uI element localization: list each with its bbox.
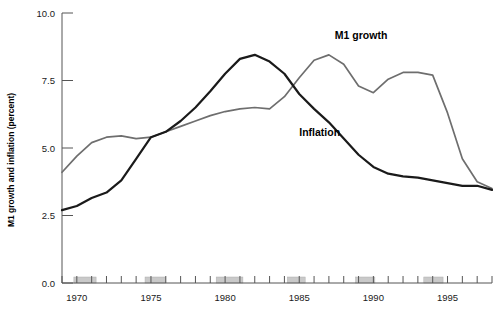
chart-background <box>0 0 503 318</box>
recession-bar <box>287 277 305 283</box>
recession-bar <box>424 277 443 283</box>
y-axis-tick-label: 10.0 <box>37 8 56 19</box>
x-axis-tick-label: 1975 <box>140 292 161 303</box>
x-axis-tick-label: 1995 <box>437 292 458 303</box>
y-axis-title: M1 growth and inflation (percent) <box>6 93 16 227</box>
y-axis-tick-label: 5.0 <box>42 143 55 154</box>
y-axis-tick-label: 0.0 <box>42 278 55 289</box>
chart-container: 0.02.55.07.510.0 19701975198019851990199… <box>0 0 503 318</box>
recession-bar <box>216 277 243 283</box>
x-axis-tick-label: 1990 <box>363 292 384 303</box>
x-axis-tick-label: 1980 <box>215 292 236 303</box>
series-label-inflation: Inflation <box>299 126 340 138</box>
y-axis-tick-label: 7.5 <box>42 75 55 86</box>
line-chart: 0.02.55.07.510.0 19701975198019851990199… <box>0 0 503 318</box>
series-label-m1-growth: M1 growth <box>335 29 388 41</box>
x-axis-tick-label: 1985 <box>289 292 310 303</box>
recession-bar <box>145 277 166 283</box>
y-axis-tick-label: 2.5 <box>42 210 55 221</box>
x-axis-tick-label: 1970 <box>66 292 87 303</box>
